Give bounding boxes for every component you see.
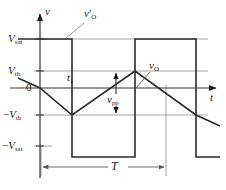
level-label-vsat-neg: −Vsat bbox=[2, 140, 23, 152]
triangle-wave-label: vO bbox=[149, 60, 159, 72]
drop-lines bbox=[41, 85, 166, 176]
vpp-annotation: vpp bbox=[106, 94, 120, 106]
vertical-axis-label: v bbox=[45, 6, 50, 17]
square-wave-label: v′O bbox=[84, 8, 96, 20]
level-label-zero: 0 bbox=[26, 82, 32, 93]
level-label-vsat-pos: Vsat bbox=[8, 33, 22, 45]
period-annotation: T bbox=[111, 160, 118, 172]
horizontal-axis-label: t bbox=[210, 92, 213, 103]
vprime-o-leader-line bbox=[66, 23, 84, 38]
t1-annotation: t1 bbox=[67, 72, 73, 84]
level-label-vth-pos: Vth bbox=[8, 65, 20, 77]
gridlines bbox=[34, 39, 208, 146]
waveform-figure: v t Vsat Vth 0 −Vth −Vsat v′O vO t1 vpp … bbox=[0, 0, 226, 190]
level-label-vth-neg: −Vth bbox=[3, 109, 21, 121]
